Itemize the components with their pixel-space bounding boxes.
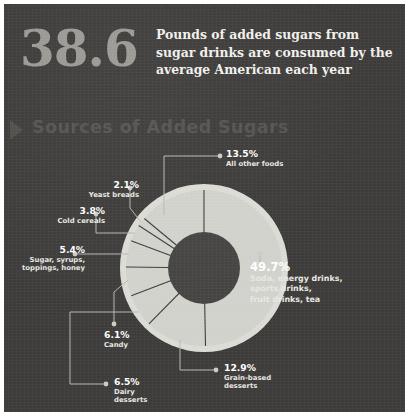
label-sugar-syrups-pct: 5.4% xyxy=(7,245,85,256)
label-soda-desc-3: fruit drinks, tea xyxy=(250,295,396,305)
label-candy-desc: Candy xyxy=(104,341,129,350)
statistic-headline: Pounds of added sugars from sugar drinks… xyxy=(156,26,396,79)
infographic-panel: 38.6 Pounds of added sugars from sugar d… xyxy=(4,4,405,412)
label-grain-based-desserts-desc-2: desserts xyxy=(224,382,271,391)
label-yeast-breads-pct: 2.1% xyxy=(19,180,139,191)
dot-dairy-desserts xyxy=(104,382,109,387)
dot-all-other-foods xyxy=(218,154,223,159)
label-all-other-foods-pct: 13.5% xyxy=(226,149,283,160)
label-cold-cereals-desc: Cold cereals xyxy=(17,217,105,226)
donut-chart: 13.5% All other foods 2.1% Yeast breads … xyxy=(4,144,405,412)
label-cold-cereals-pct: 3.8% xyxy=(17,206,105,217)
label-sugar-syrups-desc-2: toppings, honey xyxy=(7,264,85,273)
label-candy-pct: 6.1% xyxy=(104,330,129,341)
label-cold-cereals: 3.8% Cold cereals xyxy=(17,206,105,225)
label-dairy-desserts-desc-2: desserts xyxy=(114,396,147,405)
donut-hole xyxy=(168,232,240,304)
label-dairy-desserts-desc-1: Dairy xyxy=(114,388,147,397)
dot-grain-based-desserts xyxy=(214,368,219,373)
label-soda-pct: 49.7% xyxy=(250,261,396,274)
section-title: Sources of Added Sugars xyxy=(32,117,289,137)
dot-candy xyxy=(112,322,117,327)
label-soda-desc-2: sports drinks, xyxy=(250,284,396,294)
label-all-other-foods-desc: All other foods xyxy=(226,160,283,169)
label-sugar-syrups: 5.4% Sugar, syrups, toppings, honey xyxy=(7,245,85,273)
label-grain-based-desserts-pct: 12.9% xyxy=(224,363,271,374)
label-sugar-syrups-desc-1: Sugar, syrups, xyxy=(7,256,85,265)
section-header: Sources of Added Sugars xyxy=(4,116,405,146)
label-soda: 49.7% Soda, energy drinks, sports drinks… xyxy=(250,261,396,305)
label-soda-desc-1: Soda, energy drinks, xyxy=(250,274,396,284)
dot-soda xyxy=(258,252,263,257)
label-dairy-desserts-pct: 6.5% xyxy=(114,377,147,388)
triangle-right-icon xyxy=(10,120,23,140)
header: 38.6 Pounds of added sugars from sugar d… xyxy=(4,18,405,96)
label-candy: 6.1% Candy xyxy=(104,330,129,349)
statistic-number: 38.6 xyxy=(20,24,138,74)
label-yeast-breads: 2.1% Yeast breads xyxy=(19,180,139,199)
label-all-other-foods: 13.5% All other foods xyxy=(226,149,283,168)
label-dairy-desserts: 6.5% Dairy desserts xyxy=(114,377,147,405)
label-grain-based-desserts-desc-1: Grain-based xyxy=(224,374,271,383)
label-grain-based-desserts: 12.9% Grain-based desserts xyxy=(224,363,271,391)
label-yeast-breads-desc: Yeast breads xyxy=(19,191,139,200)
